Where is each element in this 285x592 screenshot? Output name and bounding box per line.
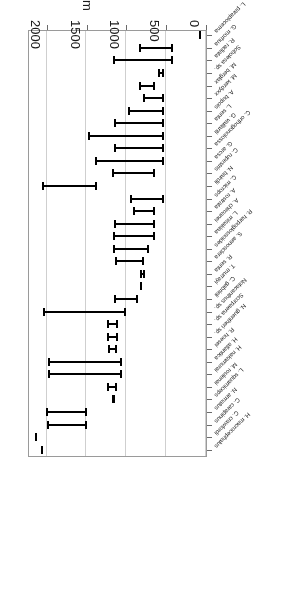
range-bar (108, 348, 118, 350)
range-bar (48, 373, 122, 375)
chart-figure: 0500100015002000 H. macrocephalusC. craw… (0, 0, 285, 592)
y-axis-tick (207, 86, 212, 87)
x-axis-tick-label: 500 (147, 20, 162, 42)
y-axis-tick (207, 274, 212, 275)
range-bar (199, 34, 201, 36)
y-axis-tick (207, 324, 212, 325)
x-axis-tick-label: 1000 (107, 20, 122, 49)
range-bar (143, 97, 164, 99)
x-axis-tick (126, 25, 127, 30)
range-bar (114, 122, 164, 124)
y-axis-tick (207, 136, 212, 137)
range-bar (88, 135, 164, 137)
y-axis-tick (207, 199, 212, 200)
y-axis-tick (207, 299, 212, 300)
y-axis-tick (207, 186, 212, 187)
y-axis-tick (207, 73, 212, 74)
x-axis-tick (166, 25, 167, 30)
range-bar (107, 386, 117, 388)
range-bar (128, 110, 164, 112)
x-axis-tick-label: 2000 (28, 20, 43, 49)
y-axis-tick (207, 374, 212, 375)
y-axis-tick (207, 173, 212, 174)
y-axis-tick (207, 362, 212, 363)
range-bar (43, 311, 126, 313)
x-axis-tick-label: 0 (187, 20, 202, 27)
range-bar (113, 59, 173, 61)
x-axis-tick-label: 1500 (68, 20, 83, 49)
y-axis-tick (207, 236, 212, 237)
y-axis-tick (207, 98, 212, 99)
y-axis-tick (207, 286, 212, 287)
y-axis-tick (207, 312, 212, 313)
y-axis-tick (207, 148, 212, 149)
y-axis-tick (207, 123, 212, 124)
y-axis-tick (207, 450, 212, 451)
range-bar (112, 172, 155, 174)
range-bar (112, 399, 114, 401)
range-bar (115, 260, 144, 262)
range-bar (35, 436, 37, 438)
range-bar (130, 198, 164, 200)
range-bar (113, 235, 156, 237)
range-bar (41, 449, 43, 451)
y-axis-tick (207, 161, 212, 162)
y-axis-tick (207, 387, 212, 388)
gridline-0 (205, 31, 206, 456)
y-axis-tick (207, 261, 212, 262)
y-axis-tick (207, 111, 212, 112)
range-bar (47, 411, 87, 413)
range-bar (42, 185, 96, 187)
plot-area (28, 30, 207, 457)
x-axis-tick (47, 25, 48, 30)
range-bar (107, 336, 117, 338)
y-axis-tick (207, 425, 212, 426)
gridline-500 (165, 31, 166, 456)
y-axis-tick (207, 437, 212, 438)
range-bar (139, 85, 155, 87)
range-bar (133, 210, 155, 212)
gridline-2000 (46, 31, 47, 456)
range-bar (114, 223, 156, 225)
gridline-1500 (85, 31, 86, 456)
range-bar (107, 323, 117, 325)
range-bar (139, 47, 172, 49)
y-axis-tick (207, 349, 212, 350)
y-axis-tick (207, 337, 212, 338)
gridline-1000 (125, 31, 126, 456)
range-bar (114, 298, 138, 300)
range-bar (158, 72, 164, 74)
range-bar (114, 147, 164, 149)
range-bar (95, 160, 164, 162)
y-axis-tick (207, 35, 212, 36)
range-bar (48, 361, 122, 363)
range-bar (113, 248, 149, 250)
y-axis-tick (207, 48, 212, 49)
y-axis-tick (207, 400, 212, 401)
range-bar (140, 273, 145, 275)
y-axis-tick (207, 224, 212, 225)
y-axis-tick (207, 249, 212, 250)
y-axis-tick (207, 60, 212, 61)
y-axis-tick (207, 211, 212, 212)
range-bar (47, 424, 88, 426)
x-axis-tick (206, 25, 207, 30)
range-bar (140, 285, 142, 287)
x-axis-title: Depth, m (81, 0, 96, 11)
y-axis-tick (207, 412, 212, 413)
x-axis-tick (87, 25, 88, 30)
